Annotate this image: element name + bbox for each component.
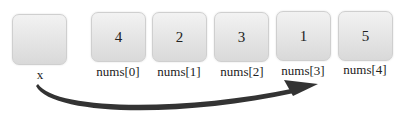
- move-arrow-icon: [0, 0, 404, 120]
